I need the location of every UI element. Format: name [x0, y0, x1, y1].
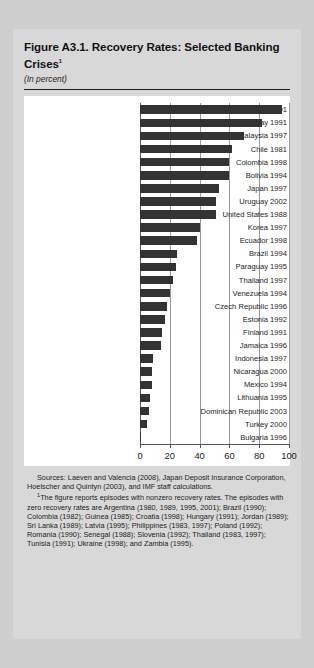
- chart-x-tick: [289, 445, 290, 449]
- chart-category-label: Czech Republic 1996: [174, 300, 290, 313]
- figure-title-footnote-marker: 1: [59, 58, 62, 64]
- chart-bar: [140, 223, 200, 232]
- chart-bar: [140, 328, 162, 337]
- chart-bar: [140, 210, 216, 219]
- chart-bar: [140, 250, 177, 259]
- chart-bar: [140, 276, 173, 285]
- chart-bar: [140, 171, 229, 180]
- chart-bar: [140, 367, 152, 376]
- chart-bar: [140, 302, 167, 311]
- chart-category-label: Mexico 1994: [174, 378, 290, 391]
- chart-category-label: Finland 1991: [174, 326, 290, 339]
- chart-category-label: Paraguay 1995: [174, 260, 290, 273]
- chart-category-label: Brazil 1994: [174, 247, 290, 260]
- chart-bar: [140, 158, 229, 167]
- chart-category-label: Thailand 1997: [174, 274, 290, 287]
- sources-note: Sources: Laeven and Valencia (2008), Jap…: [27, 473, 289, 491]
- chart-bar: [140, 105, 282, 114]
- chart-x-tick: [229, 445, 230, 449]
- chart-bar: [140, 315, 165, 324]
- chart-bar: [140, 263, 176, 272]
- chart-bar: [140, 236, 197, 245]
- chart-x-tick: [200, 445, 201, 449]
- chart-x-tick-label: 20: [165, 450, 175, 461]
- chart-bar: [140, 341, 161, 350]
- chart-bar: [140, 197, 216, 206]
- chart-x-tick: [259, 445, 260, 449]
- chart-category-label: Indonesia 1997: [174, 352, 290, 365]
- chart-category-label: Nicaragua 2000: [174, 365, 290, 378]
- chart-bar: [140, 289, 170, 298]
- chart-x-tick: [170, 445, 171, 449]
- figure-title: Figure A3.1. Recovery Rates: Selected Ba…: [24, 40, 290, 71]
- chart-bar: [140, 394, 150, 403]
- chart-gridline: [170, 103, 171, 444]
- title-divider: [24, 89, 290, 90]
- chart-canvas: Sweden 1991Norway 1991Malaysia 1997Chile…: [24, 96, 290, 466]
- chart-category-label: Estonia 1992: [174, 313, 290, 326]
- chart-bar: [140, 132, 244, 141]
- chart-category-label: Jamaica 1996: [174, 339, 290, 352]
- chart-x-tick-label: 100: [281, 450, 297, 461]
- chart-category-label: Dominican Republic 2003: [174, 405, 290, 418]
- chart-bar: [140, 119, 262, 128]
- chart-bar: [140, 145, 232, 154]
- chart-category-label: Lithuania 1995: [174, 391, 290, 404]
- chart-x-axis-line: [140, 444, 290, 445]
- figure-footnote: 1The figure reports episodes with nonzer…: [27, 491, 289, 548]
- chart-x-tick-label: 0: [137, 450, 142, 461]
- chart-bar: [140, 184, 219, 193]
- chart-bar: [140, 407, 149, 416]
- chart-category-label: Bulgaria 1996: [174, 431, 290, 444]
- chart-x-tick-label: 60: [224, 450, 234, 461]
- chart-plot-area: Sweden 1991Norway 1991Malaysia 1997Chile…: [24, 96, 290, 466]
- footnote-text: The figure reports episodes with nonzero…: [27, 494, 289, 548]
- chart-bar: [140, 420, 147, 429]
- chart-category-label: Turkey 2000: [174, 418, 290, 431]
- chart-x-tick-label: 80: [254, 450, 264, 461]
- chart-category-label: Venezuela 1994: [174, 287, 290, 300]
- chart-bar: [140, 381, 152, 390]
- chart-bar: [140, 433, 141, 442]
- chart-x-tick: [140, 445, 141, 449]
- chart-bar: [140, 354, 153, 363]
- figure-title-text: Figure A3.1. Recovery Rates: Selected Ba…: [24, 40, 279, 70]
- chart-x-tick-label: 40: [194, 450, 204, 461]
- figure-card: Figure A3.1. Recovery Rates: Selected Ba…: [13, 29, 301, 639]
- figure-notes: Sources: Laeven and Valencia (2008), Jap…: [24, 473, 290, 548]
- figure-subtitle: (In percent): [24, 74, 290, 84]
